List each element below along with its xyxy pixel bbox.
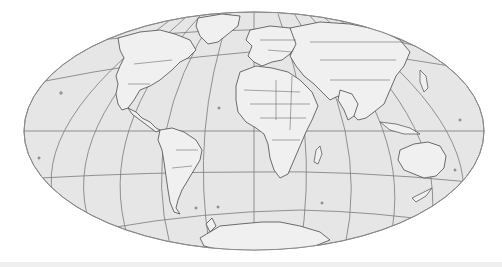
islet — [217, 206, 219, 208]
islet — [38, 157, 40, 159]
islet — [454, 169, 456, 171]
map-canvas — [0, 0, 502, 262]
islet — [459, 119, 461, 121]
bottom-strip — [0, 262, 502, 267]
world-map — [0, 0, 502, 262]
islet — [195, 207, 197, 209]
islet — [321, 202, 323, 204]
islet — [60, 92, 62, 94]
islet — [218, 107, 220, 109]
